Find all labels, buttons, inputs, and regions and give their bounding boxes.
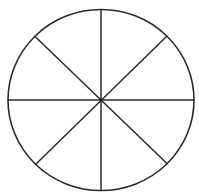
center-point xyxy=(99,98,102,101)
divided-circle-diagram xyxy=(0,0,199,193)
